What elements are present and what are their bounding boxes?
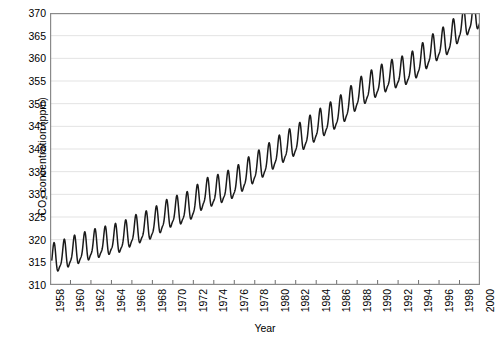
x-axis-tick-label: 2000: [485, 289, 496, 329]
co2-concentration-chart: CO2 concentration (ppm) 3103153203253303…: [0, 0, 499, 342]
chart-svg: [50, 13, 480, 285]
plot-area: [50, 13, 480, 285]
x-axis-title: Year: [50, 322, 480, 334]
